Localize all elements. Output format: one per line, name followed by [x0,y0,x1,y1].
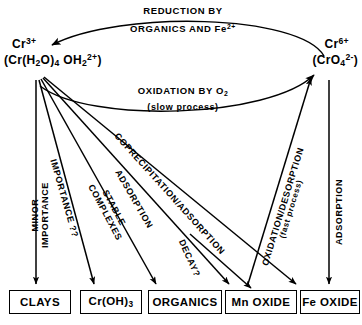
reduction-label-line2: ORGANICS AND Fe2+ [98,23,268,35]
box-clays-label: CLAYS [20,296,60,308]
box-cr-oh-3-label: Cr(OH)3 [88,295,133,309]
chromium-VI-species-primary: Cr6+ [324,36,358,52]
box-cr-oh-3[interactable]: Cr(OH)3 [80,290,142,314]
chromium-cycling-diagram: Cr3+ (Cr(H2O)4 OH22+) Cr6+ (CrO42-) REDU… [0,0,362,325]
box-organics[interactable]: ORGANICS [148,290,222,314]
box-fe-oxide[interactable]: Fe OXIDE [300,290,360,314]
box-mn-oxide[interactable]: Mn OXIDE [225,290,297,314]
oxidation-label-line1: OXIDATION BY O2 [118,86,248,97]
chromium-III-species-secondary: (Cr(H2O)4 OH22+) [4,52,102,69]
chromium-III-species-primary: Cr3+ [12,36,102,52]
path-label-adsorption-fe-oxide: ADSORPTION [334,179,344,245]
box-organics-label: ORGANICS [152,296,217,308]
reduction-arc-label: REDUCTION BY ORGANICS AND Fe2+ [98,6,268,34]
minor-importance-line1: MINOR [30,182,40,248]
reduction-label-line1: REDUCTION BY [98,6,268,17]
box-mn-oxide-label: Mn OXIDE [232,296,291,308]
oxidation-arc-label: OXIDATION BY O2 (slow process) [118,86,248,112]
adsorption-fe-oxide-line1: ADSORPTION [334,179,344,245]
oxidation-label-line2: (slow process) [118,102,248,112]
path-label-minor-importance: MINOR IMPORTANCE [30,182,50,248]
chromium-VI-node: Cr6+ (CrO42-) [312,36,358,68]
box-clays[interactable]: CLAYS [9,290,71,314]
box-fe-oxide-label: Fe OXIDE [302,296,358,308]
chromium-III-node: Cr3+ (Cr(H2O)4 OH22+) [12,36,102,68]
minor-importance-line2: IMPORTANCE [40,182,50,248]
chromium-VI-species-secondary: (CrO42-) [312,52,358,69]
